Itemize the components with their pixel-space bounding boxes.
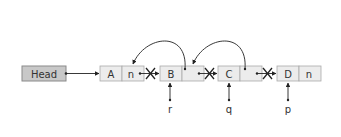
node-b-data: B [168,69,175,80]
node-a: A n [100,66,144,81]
node-d-next: n [306,69,312,80]
node-d: D n [277,66,321,81]
pointer-r-label: r [168,104,173,115]
linked-list-diagram: Head A n B C [0,0,341,137]
node-c: C [218,66,262,81]
node-c-data: C [226,69,233,80]
head-label: Head [31,69,57,80]
pointer-q: q [226,83,232,115]
head-node: Head [22,66,66,81]
node-a-data: A [108,69,115,80]
node-b: B [160,66,204,81]
pointer-p-label: p [285,104,291,115]
pointer-r: r [168,83,173,115]
node-a-next: n [128,69,134,80]
node-d-data: D [284,69,292,80]
pointer-q-label: q [226,104,232,115]
head-link-arrow [65,72,99,75]
pointer-p: p [285,83,291,115]
